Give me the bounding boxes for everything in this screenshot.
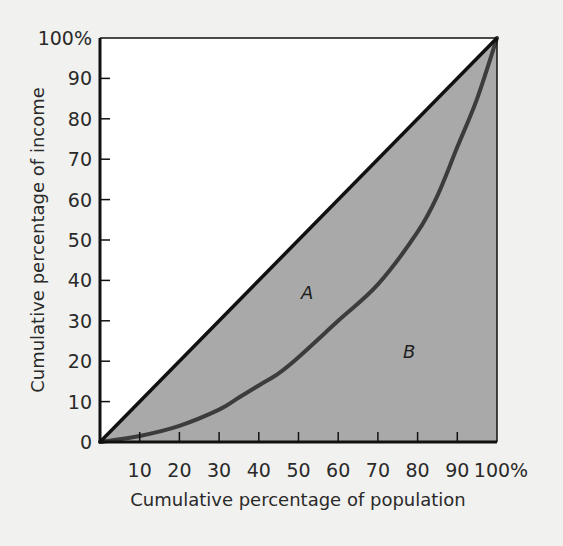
- x-axis-title: Cumulative percentage of population: [130, 489, 466, 510]
- region-a-label: A: [300, 282, 313, 303]
- y-tick-label: 50: [68, 229, 92, 251]
- y-tick-label: 70: [68, 148, 92, 170]
- x-tick-label: 60: [326, 459, 350, 481]
- y-tick-label: 10: [68, 391, 92, 413]
- x-tick-label: 40: [247, 459, 271, 481]
- y-tick-label: 20: [68, 350, 92, 372]
- lorenz-curve-chart: 0102030405060708090100% 1020304050607080…: [0, 0, 563, 546]
- y-tick-label: 80: [68, 108, 92, 130]
- x-tick-label: 30: [207, 459, 231, 481]
- x-tick-label: 80: [406, 459, 430, 481]
- x-tick-label: 10: [128, 459, 152, 481]
- plot-area: [99, 38, 497, 443]
- y-axis-title: Cumulative percentage of income: [27, 87, 48, 393]
- y-tick-label: 60: [68, 189, 92, 211]
- y-tick-label: 0: [80, 431, 92, 453]
- x-tick-label: 50: [286, 459, 310, 481]
- x-tick-label: 70: [366, 459, 390, 481]
- y-tick-label: 100%: [38, 27, 92, 49]
- y-tick-label: 90: [68, 67, 92, 89]
- y-tick-label: 30: [68, 310, 92, 332]
- x-tick-label: 20: [167, 459, 191, 481]
- x-tick-label: 100%: [474, 459, 528, 481]
- x-tick-label: 90: [445, 459, 469, 481]
- y-tick-label: 40: [68, 269, 92, 291]
- region-b-label: B: [403, 341, 415, 362]
